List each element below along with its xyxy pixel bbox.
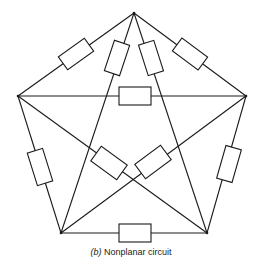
resistor-top-left (58, 38, 93, 70)
resistor-top-right (172, 38, 207, 70)
caption-label: (b) (90, 247, 101, 257)
node-bottom-right (206, 232, 209, 235)
node-top (133, 12, 136, 15)
node-right (245, 95, 248, 98)
caption-text: Nonplanar circuit (104, 247, 172, 257)
resistor-right-bottom-right (217, 145, 242, 182)
resistor-top-bottom-right (139, 40, 164, 75)
resistor-left-right (119, 87, 151, 105)
resistor-left-bottom-left (27, 148, 52, 185)
resistor-left-bottom-right (91, 146, 127, 179)
node-left (17, 95, 20, 98)
node-bottom-left (60, 232, 63, 235)
nonplanar-circuit-diagram (0, 0, 262, 264)
resistor-bottom (119, 224, 151, 242)
figure-caption: (b) Nonplanar circuit (0, 247, 262, 257)
resistor-top-bottom-left (104, 40, 129, 75)
